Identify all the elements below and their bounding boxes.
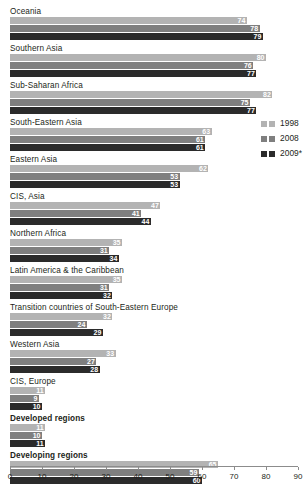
- category-label: Eastern Asia: [10, 154, 298, 165]
- bar: [10, 202, 160, 209]
- bar: [10, 284, 109, 291]
- legend-item[interactable]: 2008: [261, 132, 302, 145]
- bar-row: 10: [10, 403, 298, 410]
- legend-label: 2008: [280, 132, 299, 145]
- bar-row: 9: [10, 395, 298, 402]
- axis-tick-label: 20: [70, 472, 79, 481]
- bar-row: 31: [10, 284, 298, 291]
- bar-row: 27: [10, 358, 298, 365]
- bar-value-label: 10: [33, 403, 42, 411]
- bar-row: 74: [10, 17, 298, 24]
- bar-value-label: 31: [100, 284, 109, 292]
- bar-row: 44: [10, 218, 298, 225]
- bar-group: Transition countries of South-Eastern Eu…: [10, 302, 298, 336]
- bar-row: 10: [10, 432, 298, 439]
- legend-color-chip: [261, 151, 267, 157]
- bar-row: 75: [10, 99, 298, 106]
- category-label: CIS, Asia: [10, 191, 298, 202]
- legend-item[interactable]: 2009*: [261, 147, 302, 160]
- bar-value-label: 76: [244, 62, 253, 70]
- bar-value-label: 61: [196, 136, 205, 144]
- category-label: Western Asia: [10, 339, 298, 350]
- bar: [10, 62, 253, 69]
- bar-stack: 807677: [10, 54, 298, 77]
- bar-value-label: 78: [250, 25, 259, 33]
- legend-color-chip: [269, 136, 275, 142]
- bar: [10, 255, 119, 262]
- bar-stack: 625353: [10, 165, 298, 188]
- axis-tick: [234, 467, 235, 470]
- axis-tick-label: 70: [230, 472, 239, 481]
- axis-tick: [266, 467, 267, 470]
- bar-value-label: 11: [36, 440, 45, 448]
- bar-row: 35: [10, 239, 298, 246]
- axis-tick: [42, 467, 43, 470]
- legend-color-chip: [261, 121, 267, 127]
- bar-row: 53: [10, 173, 298, 180]
- bar-value-label: 53: [170, 173, 179, 181]
- bar: [10, 239, 122, 246]
- axis-line: [10, 466, 298, 467]
- bar-row: 47: [10, 202, 298, 209]
- bar-row: 11: [10, 440, 298, 447]
- bar-row: 82: [10, 91, 298, 98]
- bar: [10, 313, 112, 320]
- category-label: Transition countries of South-Eastern Eu…: [10, 302, 298, 313]
- bar: [10, 54, 266, 61]
- bar: [10, 292, 112, 299]
- legend-swatch-group: [261, 136, 275, 142]
- bar: [10, 128, 212, 135]
- bar-value-label: 27: [87, 358, 96, 366]
- bar: [10, 321, 87, 328]
- bar-value-label: 29: [94, 329, 103, 337]
- bar-value-label: 41: [132, 210, 141, 218]
- bar-value-label: 62: [199, 165, 208, 173]
- bar-value-label: 77: [247, 70, 256, 78]
- axis-tick: [74, 467, 75, 470]
- category-label: CIS, Europe: [10, 376, 298, 387]
- bar: [10, 276, 122, 283]
- bar-row: 33: [10, 350, 298, 357]
- bar: [10, 17, 247, 24]
- bar-value-label: 82: [263, 91, 272, 99]
- axis-tick-label: 30: [102, 472, 111, 481]
- category-label: Developing regions: [10, 450, 298, 461]
- bar-group: Eastern Asia625353: [10, 154, 298, 188]
- bar-stack: 11910: [10, 387, 298, 410]
- bar: [10, 70, 256, 77]
- bar-value-label: 32: [103, 313, 112, 321]
- bar-row: 11: [10, 424, 298, 431]
- bar-value-label: 63: [202, 128, 211, 136]
- bar: [10, 25, 260, 32]
- legend-label: 2009*: [280, 147, 302, 160]
- category-label: Developed regions: [10, 413, 298, 424]
- bar-row: 32: [10, 292, 298, 299]
- bar-group: Latin America & the Caribbean353132: [10, 265, 298, 299]
- bar-value-label: 47: [151, 202, 160, 210]
- plot-area: Oceania747879Southern Asia807677Sub-Saha…: [10, 6, 298, 466]
- bar-stack: 827577: [10, 91, 298, 114]
- bar-row: 24: [10, 321, 298, 328]
- axis-tick-label: 60: [198, 472, 207, 481]
- bar: [10, 350, 116, 357]
- bar-group: CIS, Europe11910: [10, 376, 298, 410]
- bar-row: 77: [10, 70, 298, 77]
- bar-value-label: 34: [110, 255, 119, 263]
- bar: [10, 247, 109, 254]
- category-label: Latin America & the Caribbean: [10, 265, 298, 276]
- bar-stack: 353134: [10, 239, 298, 262]
- legend-swatch-group: [261, 151, 275, 157]
- chart-legend: 199820082009*: [261, 117, 302, 162]
- axis-tick: [298, 467, 299, 470]
- axis-tick-label: 80: [262, 472, 271, 481]
- axis-tick-label: 90: [294, 472, 303, 481]
- legend-item[interactable]: 1998: [261, 117, 302, 130]
- bar-value-label: 79: [254, 33, 263, 41]
- bar-value-label: 35: [113, 239, 122, 247]
- bar-row: 29: [10, 329, 298, 336]
- bar-group: South-Eastern Asia636161: [10, 117, 298, 151]
- bar-group: Western Asia332728: [10, 339, 298, 373]
- bar-row: 32: [10, 313, 298, 320]
- legend-color-chip: [261, 136, 267, 142]
- axis-tick: [170, 467, 171, 470]
